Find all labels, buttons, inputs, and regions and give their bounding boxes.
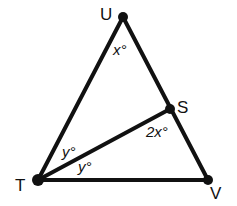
label-t: T [15, 176, 25, 195]
vertex-labels: U S T V [15, 5, 222, 203]
point-u [118, 12, 128, 22]
label-s: S [177, 98, 188, 117]
point-s [165, 104, 175, 114]
label-v: V [210, 184, 222, 203]
point-t [32, 174, 44, 186]
triangle-diagram: U S T V x° 2x° y° y° [0, 0, 237, 206]
segment-uv [123, 17, 208, 180]
label-u: U [100, 5, 112, 24]
angle-label-s: 2x° [145, 123, 168, 140]
angle-label-u: x° [112, 41, 127, 58]
angle-label-t-lower: y° [77, 158, 92, 175]
angle-label-t-upper: y° [61, 143, 76, 160]
